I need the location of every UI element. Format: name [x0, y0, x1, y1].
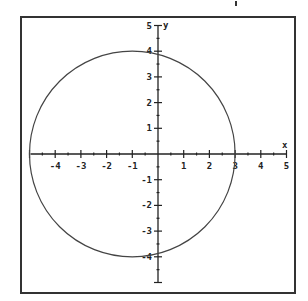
tick-labels: -4-3-2-11234554321-1-2-3-4: [50, 21, 289, 262]
x-tick-label: 1: [181, 161, 186, 171]
x-axis-label: x: [282, 140, 288, 150]
y-tick-label: 3: [147, 72, 152, 82]
y-tick-label: 4: [147, 46, 153, 56]
x-tick-label: 4: [258, 161, 264, 171]
scan-mark: [235, 1, 237, 6]
y-tick-label: 2: [147, 98, 152, 108]
x-tick-label: -1: [127, 161, 138, 171]
y-tick-label: 5: [147, 21, 152, 31]
y-tick-label: 1: [147, 123, 152, 133]
x-tick-label: 2: [207, 161, 212, 171]
y-tick-label: -3: [141, 226, 152, 236]
y-axis-label: y: [163, 20, 169, 30]
x-tick-label: 5: [284, 161, 289, 171]
y-tick-label: -2: [141, 200, 152, 210]
x-tick-label: -2: [101, 161, 112, 171]
x-tick-label: -3: [75, 161, 86, 171]
circle-graph: -4-3-2-11234554321-1-2-3-4 x y: [0, 0, 308, 301]
y-tick-label: -1: [141, 175, 152, 185]
x-tick-label: -4: [50, 161, 61, 171]
